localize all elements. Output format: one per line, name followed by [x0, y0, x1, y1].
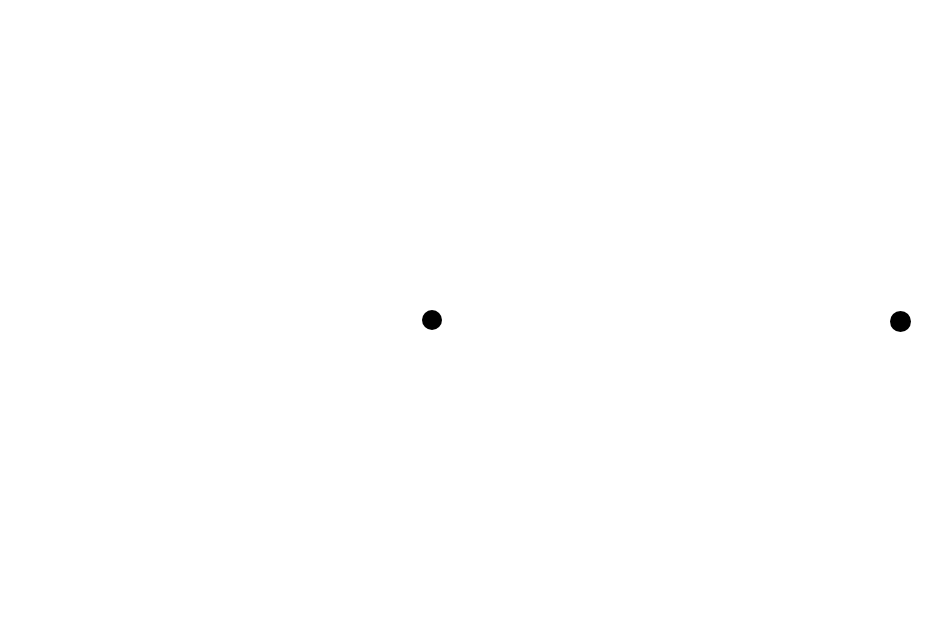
- black-dot-left: [422, 310, 442, 330]
- black-dot-right: [890, 311, 911, 332]
- blank-canvas: [0, 0, 939, 637]
